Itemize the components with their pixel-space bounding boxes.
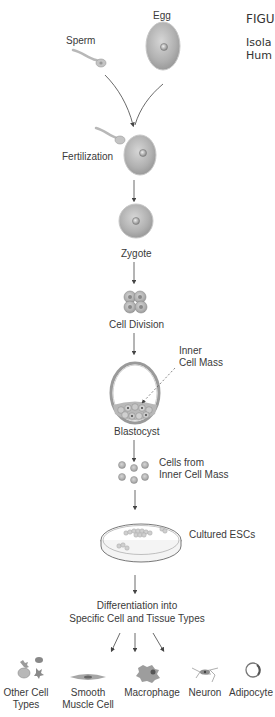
icm-cells-icon (119, 462, 149, 484)
cultured-escs-label: Cultured ESCs (189, 529, 255, 541)
cell-division-label: Cell Division (109, 319, 164, 331)
egg-label: Egg (153, 10, 171, 22)
zygote-icon (119, 204, 153, 238)
cell-type-other-line-2: Types (0, 699, 52, 711)
differentiation-label-line-1: Differentiation into (37, 600, 237, 612)
blastocyst-icon (111, 363, 159, 423)
figure-caption-line-2: Hum (246, 49, 272, 62)
fertilization-label: Fertilization (62, 151, 113, 163)
adipocyte-icon (246, 663, 260, 677)
differentiation-label-line-2: Specific Cell and Tissue Types (37, 613, 237, 625)
cell-type-smooth-muscle-line-1: Smooth (60, 687, 116, 699)
blastocyst-label: Blastocyst (114, 426, 160, 438)
petri-dish-icon (101, 524, 181, 562)
cell-type-neuron: Neuron (186, 687, 224, 699)
inner-cell-mass-label-line-1: Inner (179, 345, 202, 357)
cells-from-icm-label-line-1: Cells from (159, 457, 204, 469)
zygote-label: Zygote (121, 248, 152, 260)
cell-type-adipocyte: Adipocyte (227, 687, 275, 699)
sperm-cell-icon (73, 50, 106, 67)
cell-type-smooth-muscle-line-2: Muscle Cell (60, 699, 116, 711)
cell-type-macrophage: Macrophage (122, 687, 182, 699)
sperm-label: Sperm (66, 35, 95, 47)
figure-label: FIGU (246, 12, 275, 26)
cells-from-icm-label-line-2: Inner Cell Mass (159, 469, 228, 481)
cell-type-other-line-1: Other Cell (0, 687, 52, 699)
cell-division-icon (124, 291, 147, 313)
other-cell-types-icon (18, 657, 44, 679)
inner-cell-mass-label-line-2: Cell Mass (179, 357, 223, 369)
neuron-icon (192, 668, 218, 682)
figure-caption-line-1: Isola (246, 36, 272, 49)
macrophage-icon (136, 665, 160, 683)
smooth-muscle-cell-icon (70, 674, 106, 680)
egg-cell-icon (146, 22, 180, 70)
